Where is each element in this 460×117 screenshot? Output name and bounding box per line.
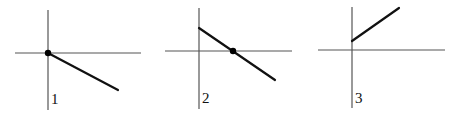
plotted-line: [48, 53, 118, 90]
graph-panel-3: 3: [318, 7, 445, 108]
panel-label: 1: [51, 91, 59, 107]
graphs-figure: 1 2 3: [0, 0, 460, 117]
plotted-line: [199, 28, 275, 80]
panel-label: 2: [202, 90, 210, 106]
graph-panel-1: 1: [15, 10, 141, 110]
plotted-line: [352, 8, 399, 41]
panel-label: 3: [355, 90, 363, 106]
intersection-dot: [230, 48, 236, 54]
graph-panel-2: 2: [165, 8, 292, 109]
intersection-dot: [45, 50, 51, 56]
